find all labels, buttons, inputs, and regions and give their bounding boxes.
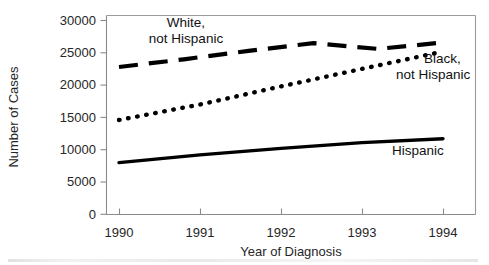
annotation-black-line2: not Hispanic (396, 67, 471, 82)
y-axis-ticks (101, 21, 107, 215)
y-tick-label-15000: 15000 (60, 110, 96, 125)
x-axis-title: Year of Diagnosis (240, 244, 342, 259)
y-axis-title: Number of Cases (6, 66, 21, 168)
annotation-black-line1: Black, (424, 51, 461, 66)
annotation-white-line1: White, (167, 15, 205, 30)
x-tick-label-1992: 1992 (267, 225, 296, 240)
annotation-white-line2: not Hispanic (149, 31, 224, 46)
chart-figure: 30000 25000 20000 15000 10000 5000 0 199… (0, 0, 489, 265)
y-tick-label-0: 0 (89, 207, 96, 222)
y-tick-label-25000: 25000 (60, 45, 96, 60)
x-tick-label-1991: 1991 (186, 225, 215, 240)
y-axis-tick-labels: 30000 25000 20000 15000 10000 5000 0 (60, 13, 96, 222)
series-line-white-not-hispanic (119, 43, 443, 68)
y-tick-label-30000: 30000 (60, 13, 96, 28)
y-tick-label-20000: 20000 (60, 77, 96, 92)
x-axis-ticks (120, 209, 444, 215)
scan-artifact-strip (8, 259, 478, 262)
x-tick-label-1993: 1993 (348, 225, 377, 240)
x-axis-tick-labels: 1990 1991 1992 1993 1994 (105, 225, 458, 240)
annotation-black-not-hispanic: Black, not Hispanic (396, 51, 471, 82)
y-tick-label-10000: 10000 (60, 142, 96, 157)
annotation-white-not-hispanic: White, not Hispanic (149, 15, 224, 46)
line-chart-svg: 30000 25000 20000 15000 10000 5000 0 199… (0, 0, 489, 265)
y-tick-label-5000: 5000 (67, 174, 96, 189)
annotation-hispanic: Hispanic (392, 143, 444, 158)
x-tick-label-1990: 1990 (105, 225, 134, 240)
x-tick-label-1994: 1994 (429, 225, 458, 240)
